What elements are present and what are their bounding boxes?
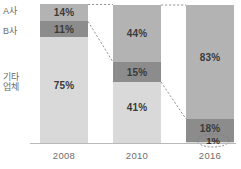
bar-2010-segment-b: 15% (113, 62, 161, 82)
x-tick-2010: 2010 (113, 150, 161, 161)
stacked-bar-chart: A사 B사 기타 업체 14% 11% 75% 44% 15% (0, 0, 241, 169)
bar-2008-value-b: 11% (40, 24, 88, 35)
bar-2010-segment-etc: 41% (113, 82, 161, 143)
bar-2016-segment-a: 83% (186, 5, 234, 119)
bar-2008-segment-a: 14% (40, 4, 88, 21)
bar-2010: 44% 15% 41% (113, 5, 161, 143)
bar-2008-segment-etc: 75% (40, 37, 88, 143)
x-tick-2016: 2016 (186, 150, 234, 161)
bar-2010-value-b: 15% (113, 67, 161, 78)
bar-2010-value-a: 44% (113, 28, 161, 39)
bar-2008-segment-b: 11% (40, 21, 88, 37)
bar-2010-segment-a: 44% (113, 5, 161, 62)
bar-2008-value-a: 14% (40, 7, 88, 18)
x-tick-2008: 2008 (40, 150, 88, 161)
callout-1pct: 1% (196, 134, 230, 147)
bar-2016: 83% 18% (186, 5, 234, 143)
bar-2016-value-b: 18% (186, 123, 234, 134)
bar-2008: 14% 11% 75% (40, 4, 88, 143)
callout-1pct-label: 1% (196, 135, 230, 146)
bar-2008-value-etc: 75% (40, 80, 88, 91)
bar-2016-value-a: 83% (186, 52, 234, 63)
bar-2010-value-etc: 41% (113, 102, 161, 113)
